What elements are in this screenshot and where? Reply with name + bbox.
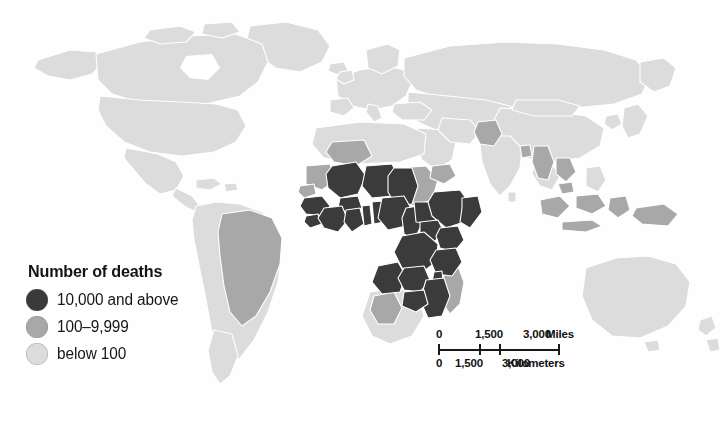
scale-rule	[436, 344, 586, 356]
scale-tick-end	[558, 344, 560, 355]
legend-swatch-high	[26, 289, 48, 311]
scale-kilometers-labels: 0 1,500 3,000 Kilometers	[436, 357, 586, 372]
scale-km-tick-0: 0	[436, 357, 442, 369]
legend-item-mid: 100–9,999	[26, 314, 184, 340]
legend-swatch-mid	[26, 316, 48, 338]
scale-tick-start	[438, 344, 440, 355]
scale-miles-unit: Miles	[546, 328, 574, 340]
scale-miles-tick-0: 0	[436, 328, 442, 340]
legend-label-mid: 100–9,999	[57, 318, 129, 336]
map-scale-bar: 0 1,500 3,000 Miles 0 1,500 3,000 Kilome…	[436, 328, 586, 372]
scale-km-tick-1500: 1,500	[455, 357, 483, 369]
scale-tick-mi-1500	[499, 344, 501, 355]
map-legend: Number of deaths 10,000 and above 100–9,…	[26, 262, 184, 368]
legend-item-low: below 100	[26, 341, 184, 367]
scale-tick-km-1500	[479, 344, 481, 355]
legend-item-high: 10,000 and above	[26, 287, 184, 313]
scale-miles-labels: 0 1,500 3,000 Miles	[436, 328, 586, 343]
scale-km-unit: Kilometers	[507, 357, 564, 369]
legend-label-low: below 100	[57, 345, 126, 363]
legend-swatch-low	[26, 343, 48, 365]
world-map: Number of deaths 10,000 and above 100–9,…	[0, 0, 727, 426]
legend-label-high: 10,000 and above	[57, 291, 178, 309]
scale-miles-tick-1500: 1,500	[475, 328, 503, 340]
legend-title: Number of deaths	[28, 262, 176, 282]
